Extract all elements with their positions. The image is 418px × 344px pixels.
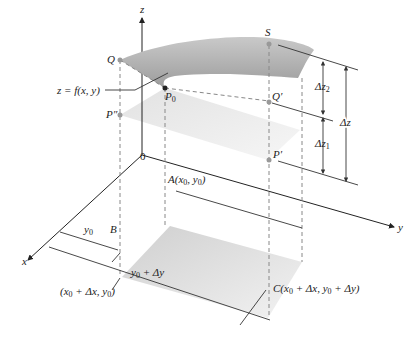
point-P-prime	[267, 158, 272, 163]
label-dz: Δz	[339, 116, 351, 128]
total-differential-diagram: z y x 0 Q S P0 Q′ P″ P′ B A(x0, y0) z = …	[0, 0, 418, 344]
surface-label: z = f(x, y)	[56, 84, 100, 97]
label-C-coordinates: C(x0 + Δx, y0 + Δy)	[273, 282, 360, 296]
origin-label: 0	[140, 150, 146, 162]
surface-patch	[120, 37, 314, 88]
label-y0-plus-dy: y0 + Δy	[130, 266, 164, 280]
label-Q: Q	[107, 53, 115, 65]
point-S	[267, 42, 272, 47]
point-P-double-prime	[118, 113, 123, 118]
label-Q-prime: Q′	[272, 90, 283, 102]
point-Q	[118, 58, 123, 63]
label-y0: y0	[83, 223, 93, 237]
label-P-prime: P′	[272, 148, 283, 160]
label-B-coordinates: (x0 + Δx, y0)	[60, 285, 115, 299]
label-B: B	[110, 223, 117, 235]
x-axis	[28, 155, 142, 260]
z-axis-label: z	[139, 3, 145, 15]
label-P-double-prime: P″	[105, 108, 118, 120]
y-axis-label: y	[397, 221, 403, 233]
point-Q-prime	[267, 100, 272, 105]
label-S: S	[265, 26, 271, 38]
label-A: A(x0, y0)	[167, 173, 206, 187]
x-axis-label: x	[21, 255, 27, 267]
label-dz2: Δz2	[314, 80, 330, 94]
label-dz1: Δz1	[314, 137, 330, 151]
y-axis	[142, 155, 394, 227]
